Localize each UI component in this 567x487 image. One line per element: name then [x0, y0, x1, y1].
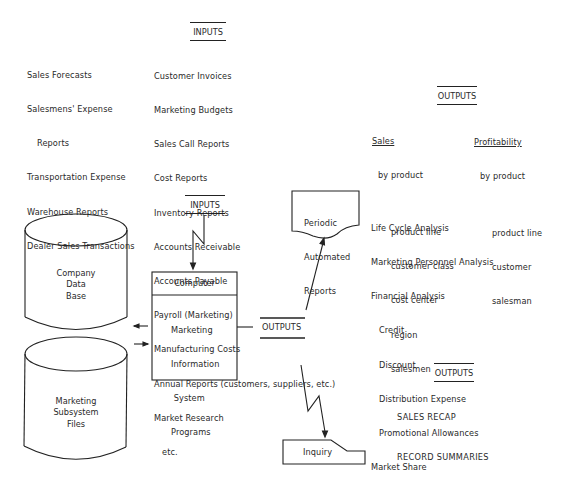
list-item: RECORD SUMMARIES	[397, 452, 503, 469]
list-item: Credit	[371, 325, 494, 336]
outputs-top-header: OUTPUTS	[437, 86, 477, 105]
computer-title: Computer	[152, 278, 237, 289]
company-database-label: Company Data Base	[40, 268, 112, 302]
list-item: product line	[492, 228, 542, 239]
outputs-bottom-list: SALES RECAP RECORD SUMMARIES TRANSACTION…	[397, 389, 503, 487]
list-item: Dealer Sales Transactions	[27, 241, 135, 252]
computer-body: Marketing Information System Programs	[171, 302, 220, 450]
list-item: Salesmens' Expense	[27, 104, 135, 115]
marketing-files-label: Marketing Subsystem Files	[40, 396, 112, 430]
sales-title: Sales	[372, 136, 454, 147]
list-item: Sales Call Reports	[154, 139, 335, 150]
periodic-reports-label: Periodic Automated Reports	[304, 195, 350, 309]
list-item: Cost Reports	[154, 173, 335, 184]
sales-by: by product	[372, 170, 454, 181]
list-item: Warehouse Reports	[27, 207, 135, 218]
list-item: Discount	[371, 360, 494, 371]
list-item: Reports	[27, 138, 135, 149]
outputs-bottom-header: OUTPUTS	[434, 363, 474, 382]
list-item: Marketing Personnel Analysis	[371, 257, 494, 268]
list-item: SALES RECAP	[397, 412, 503, 429]
profitability-title: Profitability	[474, 137, 542, 148]
profitability-by: by product	[474, 171, 542, 182]
list-item: customer	[492, 262, 542, 273]
list-item: Customer Invoices	[154, 71, 335, 82]
diagram-outputs-label: OUTPUTS	[262, 322, 301, 333]
left-inputs-list: Sales Forecasts Salesmens' Expense Repor…	[27, 47, 135, 264]
list-item: salesman	[492, 296, 542, 307]
inputs-header: INPUTS	[190, 22, 226, 41]
list-item: Sales Forecasts	[27, 70, 135, 81]
list-item: Life Cycle Analysis	[371, 223, 494, 234]
list-item: Transportation Expense	[27, 172, 135, 183]
list-item: Financial Analysis	[371, 291, 494, 302]
inquiry-label: Inquiry	[303, 447, 332, 458]
list-item: Marketing Budgets	[154, 105, 335, 116]
diagram-inputs-label: INPUTS	[185, 195, 225, 214]
